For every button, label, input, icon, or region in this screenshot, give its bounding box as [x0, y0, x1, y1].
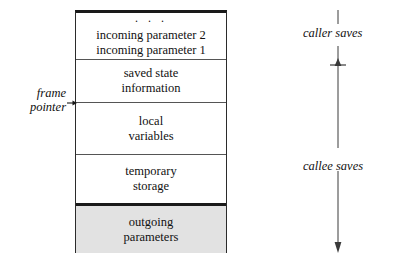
temporary-storage-label-line2: storage	[133, 179, 169, 194]
outgoing-parameters-label-line2: parameters	[124, 230, 179, 245]
outgoing-parameters-label-line1: outgoing	[129, 215, 173, 230]
incoming-parameter-2-label: incoming parameter 2	[96, 28, 206, 43]
callee-saves-label: callee saves	[303, 159, 363, 174]
saved-state-label-line1: saved state	[124, 66, 179, 81]
saves-span-indicator	[300, 8, 400, 260]
frame-pointer-label-line1: frame	[37, 86, 66, 100]
saved-state-label-line2: information	[121, 81, 180, 96]
frame-pointer-label-line2: pointer	[30, 100, 66, 114]
stack-frame-box: · · · incoming parameter 2 incoming para…	[75, 10, 227, 253]
frame-section-incoming-parameters: · · · incoming parameter 2 incoming para…	[76, 13, 226, 60]
local-variables-label-line2: variables	[128, 129, 173, 144]
temporary-storage-label-line1: temporary	[125, 164, 176, 179]
local-variables-label-line1: local	[139, 114, 163, 129]
ellipsis-marker: · · ·	[135, 16, 168, 27]
frame-section-temporary-storage: temporary storage	[76, 155, 226, 206]
frame-section-local-variables: local variables	[76, 103, 226, 155]
frame-pointer-label: frame pointer	[8, 86, 66, 114]
frame-section-outgoing-parameters: outgoing parameters	[76, 206, 226, 253]
frame-section-saved-state-information: saved state information	[76, 60, 226, 103]
incoming-parameter-1-label: incoming parameter 1	[96, 43, 206, 58]
stack-frame-diagram: · · · incoming parameter 2 incoming para…	[0, 0, 400, 268]
caller-saves-label: caller saves	[303, 26, 362, 41]
frame-pointer-arrow-icon	[67, 99, 77, 107]
